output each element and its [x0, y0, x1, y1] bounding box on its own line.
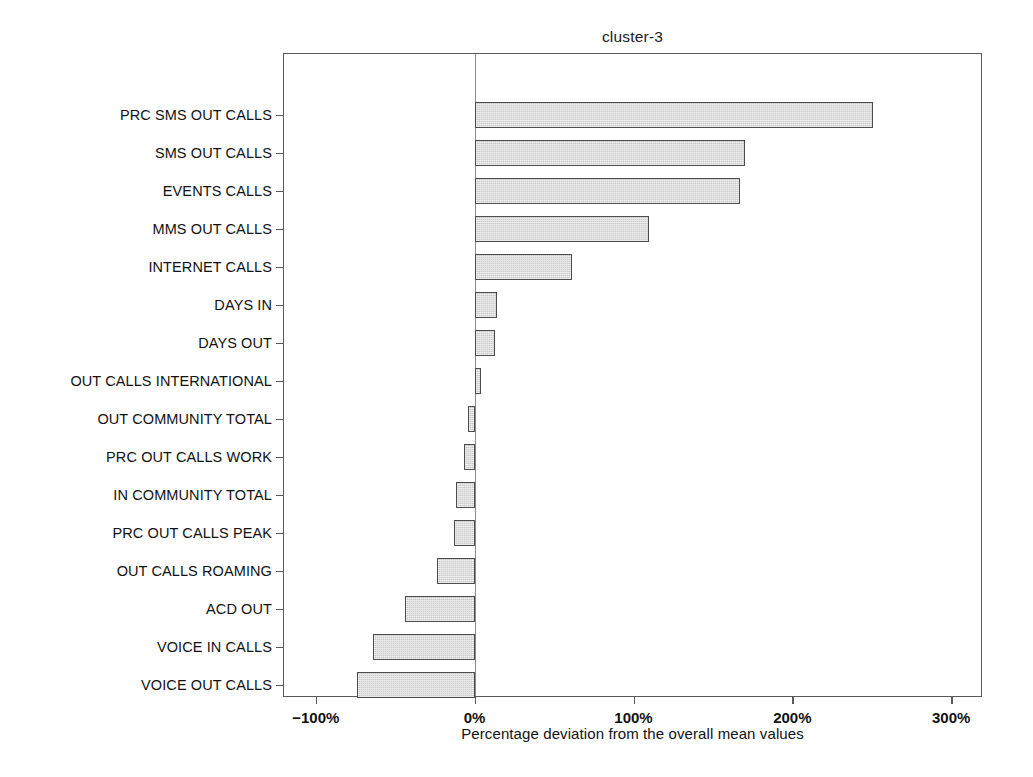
x-axis-tick [634, 696, 635, 704]
x-axis-tick-label: 300% [932, 709, 970, 726]
bar[interactable] [464, 444, 475, 470]
x-axis-title: Percentage deviation from the overall me… [283, 725, 982, 742]
y-axis-label: MMS OUT CALLS [153, 221, 272, 237]
y-axis-tick [276, 115, 284, 116]
y-axis-tick [276, 229, 284, 230]
y-axis-tick [276, 457, 284, 458]
bar-row [284, 362, 981, 400]
y-axis-label: DAYS IN [214, 297, 272, 313]
y-axis-tick [276, 153, 284, 154]
y-axis-label: VOICE IN CALLS [157, 639, 272, 655]
x-axis-tick-label: 0% [464, 709, 486, 726]
y-axis-label: PRC OUT CALLS WORK [106, 449, 272, 465]
bar-row [284, 590, 981, 628]
y-axis-tick [276, 571, 284, 572]
x-axis-tick [475, 696, 476, 704]
y-axis-label: PRC OUT CALLS PEAK [113, 525, 272, 541]
bar[interactable] [357, 672, 475, 698]
bar-row [284, 96, 981, 134]
bar[interactable] [468, 406, 474, 432]
bar[interactable] [475, 254, 572, 280]
y-axis-label: SMS OUT CALLS [155, 145, 272, 161]
bar[interactable] [475, 102, 874, 128]
x-axis-tick [316, 696, 317, 704]
chart-figure: cluster-3 PRC SMS OUT CALLSSMS OUT CALLS… [0, 0, 1033, 777]
y-axis-label: OUT CALLS ROAMING [117, 563, 272, 579]
bar[interactable] [475, 178, 740, 204]
y-axis-tick [276, 419, 284, 420]
y-axis-label: OUT CALLS INTERNATIONAL [70, 373, 272, 389]
y-axis-tick [276, 533, 284, 534]
y-axis-label: EVENTS CALLS [163, 183, 272, 199]
bar-row [284, 400, 981, 438]
x-axis-tick-label: 200% [773, 709, 811, 726]
bar[interactable] [475, 216, 650, 242]
bar[interactable] [373, 634, 475, 660]
bar[interactable] [475, 140, 745, 166]
plot-area: PRC SMS OUT CALLSSMS OUT CALLSEVENTS CAL… [283, 53, 982, 697]
y-axis-tick [276, 685, 284, 686]
bar-row [284, 134, 981, 172]
bar-row [284, 286, 981, 324]
bar-row [284, 438, 981, 476]
y-axis-label: DAYS OUT [198, 335, 272, 351]
y-axis-label: PRC SMS OUT CALLS [120, 107, 272, 123]
x-axis-tick [792, 696, 793, 704]
y-axis-tick [276, 495, 284, 496]
y-axis-label: VOICE OUT CALLS [141, 677, 272, 693]
bar-row [284, 628, 981, 666]
y-axis-tick [276, 343, 284, 344]
x-axis-tick [951, 696, 952, 704]
bar-row [284, 476, 981, 514]
bar-row [284, 172, 981, 210]
y-axis-tick [276, 267, 284, 268]
bar[interactable] [475, 368, 481, 394]
y-axis-tick [276, 647, 284, 648]
chart-title: cluster-3 [283, 28, 982, 46]
bar[interactable] [454, 520, 475, 546]
y-axis-tick [276, 381, 284, 382]
y-axis-label: ACD OUT [206, 601, 272, 617]
bar[interactable] [475, 292, 497, 318]
y-axis-label: INTERNET CALLS [148, 259, 272, 275]
bar-row [284, 248, 981, 286]
bar[interactable] [456, 482, 475, 508]
bar-row [284, 552, 981, 590]
bar-row [284, 666, 981, 704]
y-axis-tick [276, 191, 284, 192]
bar[interactable] [437, 558, 475, 584]
bar-row [284, 324, 981, 362]
bar[interactable] [475, 330, 496, 356]
bar-row [284, 210, 981, 248]
y-axis-label: OUT COMMUNITY TOTAL [97, 411, 272, 427]
bar[interactable] [405, 596, 475, 622]
x-axis-tick-label: 100% [614, 709, 652, 726]
y-axis-tick [276, 305, 284, 306]
bar-row [284, 514, 981, 552]
y-axis-tick [276, 609, 284, 610]
y-axis-label: IN COMMUNITY TOTAL [113, 487, 272, 503]
x-axis-tick-label: −100% [292, 709, 339, 726]
